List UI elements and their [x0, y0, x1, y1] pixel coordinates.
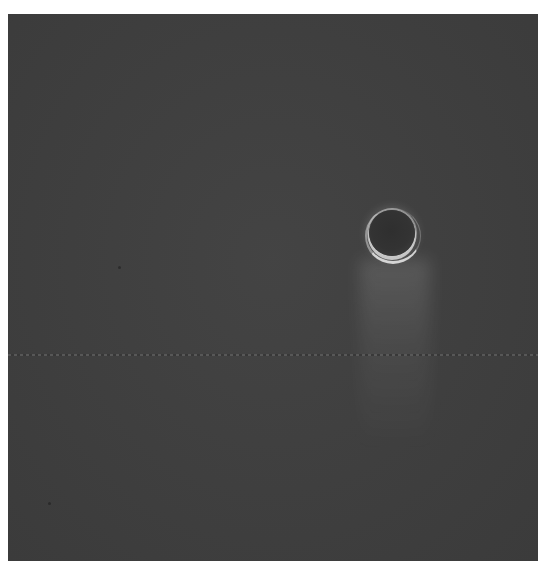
microscopy-image: Phase-contrast microscopy image of a sin…	[8, 14, 538, 561]
scan-line-artifact	[8, 354, 538, 356]
debris-speck	[48, 502, 51, 505]
cell	[369, 210, 415, 256]
debris-speck	[118, 266, 121, 269]
background-vignette	[8, 14, 538, 561]
